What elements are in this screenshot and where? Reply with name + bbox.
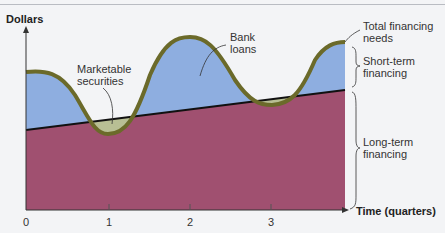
y-axis-arrow-icon [23, 26, 29, 33]
short-term-label: Short-term financing [363, 55, 433, 79]
long-term-label: Long-term financing [363, 136, 433, 160]
long-term-brace [350, 92, 360, 209]
total-pointer [345, 30, 360, 42]
chart-container: Dollars Marketable securities Bank loans… [0, 0, 445, 233]
x-axis-arrow-icon [342, 207, 349, 213]
tick-label-0: 0 [23, 216, 29, 228]
y-axis-label: Dollars [6, 13, 43, 25]
tick-label-2: 2 [187, 216, 193, 228]
tick-label-1: 1 [106, 216, 112, 228]
short-term-brace [352, 47, 360, 87]
bank-loans-label: Bank loans [230, 31, 260, 55]
x-axis-label: Time (quarters) [356, 205, 445, 217]
total-needs-label: Total financing needs [363, 20, 443, 44]
marketable-securities-label: Marketable securities [77, 63, 147, 87]
tick-label-3: 3 [268, 216, 274, 228]
